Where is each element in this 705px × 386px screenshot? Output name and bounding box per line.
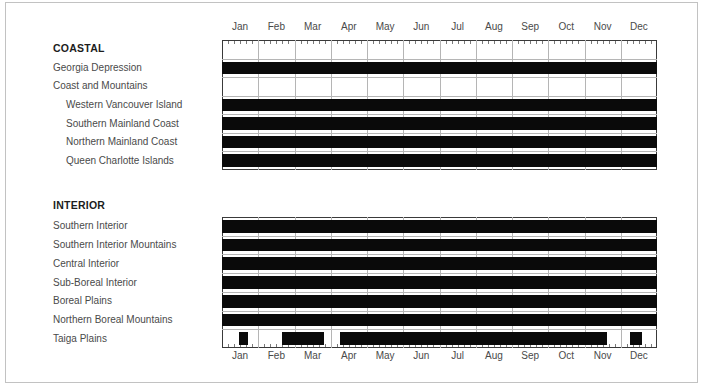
tick-mark: [542, 41, 543, 44]
month-label-dec-top: Dec: [630, 21, 648, 32]
grid-line: [222, 77, 657, 78]
tick-mark: [240, 41, 241, 44]
region-label-taiga-plains: Taiga Plains: [53, 332, 107, 343]
tick-mark: [639, 41, 640, 44]
tick-mark: [421, 41, 422, 44]
tick-mark: [560, 41, 561, 44]
tick-mark: [615, 41, 616, 44]
grid-line: [222, 59, 657, 60]
month-label-nov-top: Nov: [594, 21, 612, 32]
activity-bar-southern-interior-mountains: [222, 239, 657, 252]
tick-mark: [391, 41, 392, 44]
tick-mark: [276, 344, 277, 347]
tick-mark: [276, 41, 277, 44]
region-label-western-vancouver-island: Western Vancouver Island: [66, 99, 182, 110]
tick-mark: [627, 41, 628, 44]
tick-mark: [252, 41, 253, 44]
month-label-may-top: May: [376, 21, 395, 32]
tick-mark: [361, 41, 362, 44]
grid-line: [222, 96, 657, 97]
region-label-northern-mainland-coast: Northern Mainland Coast: [66, 136, 177, 147]
grid-line: [222, 133, 657, 134]
month-label-jan-bottom: Jan: [232, 350, 248, 361]
region-label-coast-and-mountains: Coast and Mountains: [53, 80, 148, 91]
tick-mark: [355, 41, 356, 44]
tick-mark: [270, 41, 271, 44]
tick-mark: [627, 344, 628, 347]
region-label-southern-interior-mountains: Southern Interior Mountains: [53, 239, 176, 250]
tick-mark: [464, 41, 465, 44]
grid-line: [222, 151, 657, 152]
activity-bar-taiga-plains: [239, 332, 249, 345]
tick-mark: [470, 41, 471, 44]
month-label-feb-top: Feb: [268, 21, 285, 32]
tick-mark: [603, 41, 604, 44]
month-label-dec-bottom: Dec: [630, 350, 648, 361]
month-label-oct-top: Oct: [559, 21, 575, 32]
tick-mark: [633, 41, 634, 44]
month-label-nov-bottom: Nov: [594, 350, 612, 361]
grid-line: [222, 329, 657, 330]
tick-mark: [500, 41, 501, 44]
tick-mark: [343, 41, 344, 44]
activity-bar-taiga-plains: [282, 332, 324, 345]
tick-mark: [307, 41, 308, 44]
tick-mark: [482, 41, 483, 44]
grid-line: [222, 311, 657, 312]
activity-bar-southern-interior: [222, 220, 657, 233]
seasonal-activity-chart: INTERIOR JanFebMarAprMayJunJulAugSepOctN…: [0, 0, 705, 386]
tick-mark: [409, 41, 410, 44]
region-label-sub-boreal-interior: Sub-Boreal Interior: [53, 276, 137, 287]
grid-line: [222, 292, 657, 293]
tick-mark: [433, 41, 434, 44]
activity-bar-northern-boreal-mountains: [222, 314, 657, 327]
tick-mark: [246, 41, 247, 44]
month-label-apr-bottom: Apr: [341, 350, 357, 361]
activity-bar-southern-mainland-coast: [222, 117, 657, 130]
grid-line: [222, 254, 657, 255]
tick-mark: [415, 41, 416, 44]
tick-mark: [645, 41, 646, 44]
tick-mark: [234, 344, 235, 347]
tick-mark: [349, 41, 350, 44]
tick-mark: [645, 344, 646, 347]
tick-mark: [651, 344, 652, 347]
region-label-southern-mainland-coast: Southern Mainland Coast: [66, 117, 179, 128]
month-label-mar-top: Mar: [304, 21, 321, 32]
section-heading-coastal: COASTAL: [53, 42, 105, 54]
month-label-feb-bottom: Feb: [268, 350, 285, 361]
tick-mark: [234, 41, 235, 44]
month-label-sep-bottom: Sep: [521, 350, 539, 361]
grid-line: [222, 273, 657, 274]
tick-mark: [615, 344, 616, 347]
tick-mark: [591, 41, 592, 44]
month-label-may-bottom: May: [376, 350, 395, 361]
activity-bar-sub-boreal-interior: [222, 276, 657, 289]
tick-mark: [264, 344, 265, 347]
tick-mark: [385, 41, 386, 44]
month-label-jun-top: Jun: [413, 21, 429, 32]
tick-mark: [566, 41, 567, 44]
tick-mark: [572, 41, 573, 44]
activity-bar-boreal-plains: [222, 295, 657, 308]
tick-mark: [609, 344, 610, 347]
activity-bar-georgia-depression: [222, 62, 657, 75]
tick-mark: [597, 41, 598, 44]
tick-mark: [252, 344, 253, 347]
tick-mark: [506, 41, 507, 44]
tick-mark: [524, 41, 525, 44]
month-label-oct-bottom: Oct: [559, 350, 575, 361]
month-label-jul-top: Jul: [451, 21, 464, 32]
region-label-southern-interior: Southern Interior: [53, 220, 128, 231]
tick-mark: [578, 41, 579, 44]
tick-mark: [228, 344, 229, 347]
region-label-central-interior: Central Interior: [53, 257, 119, 268]
tick-mark: [427, 41, 428, 44]
tick-mark: [530, 41, 531, 44]
activity-bar-northern-mainland-coast: [222, 136, 657, 149]
activity-bar-western-vancouver-island: [222, 99, 657, 112]
tick-mark: [325, 344, 326, 347]
tick-mark: [319, 41, 320, 44]
activity-bar-central-interior: [222, 257, 657, 270]
tick-mark: [337, 344, 338, 347]
